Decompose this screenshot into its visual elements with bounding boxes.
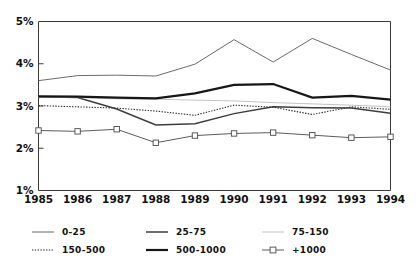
- series-line: [39, 129, 391, 143]
- y-tick-label: 4%: [16, 57, 34, 69]
- x-tick-label: 1994: [376, 193, 405, 205]
- x-tick-label: 1988: [141, 193, 170, 205]
- legend-item-25-75[interactable]: 25-75: [146, 227, 206, 237]
- series-0-25: [39, 38, 391, 80]
- x-tick-label: 1989: [180, 193, 209, 205]
- series-marker-square: [75, 129, 80, 134]
- legend-label: 25-75: [176, 227, 206, 237]
- series-marker-square: [349, 135, 354, 140]
- x-tick-label: 1991: [259, 193, 288, 205]
- legend-item-75-150[interactable]: 75-150: [262, 227, 329, 237]
- series-line: [39, 105, 391, 115]
- legend-label: 500-1000: [176, 245, 226, 255]
- series-line: [39, 84, 391, 100]
- legend-item-500-1000[interactable]: 500-1000: [146, 245, 226, 255]
- legend-marker-square: [270, 247, 276, 253]
- series-marker-square: [270, 130, 275, 135]
- y-tick-label: 5%: [16, 15, 34, 27]
- x-tick-label: 1993: [337, 193, 366, 205]
- chart-legend: 0-2525-7575-150150-500500-1000+1000: [32, 227, 329, 255]
- chart-container: 1%2%3%4%5% 19851986198719881989199019911…: [0, 0, 416, 267]
- legend-label: +1000: [292, 245, 326, 255]
- series-500-1000: [39, 84, 391, 100]
- y-tick-label: 2%: [16, 142, 34, 154]
- series-marker-square: [36, 128, 41, 133]
- y-axis-labels: 1%2%3%4%5%: [16, 15, 34, 196]
- series-layer: [36, 38, 393, 145]
- series-marker-square: [310, 132, 315, 137]
- series-150-500: [39, 105, 391, 115]
- legend-item--1000[interactable]: +1000: [262, 245, 326, 255]
- series-marker-square: [231, 131, 236, 136]
- series-marker-square: [192, 133, 197, 138]
- series-marker-square: [114, 127, 119, 132]
- series-line: [39, 38, 391, 80]
- x-tick-label: 1990: [219, 193, 248, 205]
- legend-label: 75-150: [292, 227, 329, 237]
- legend-item-150-500[interactable]: 150-500: [32, 245, 105, 255]
- y-tick-label: 3%: [16, 100, 34, 112]
- series-25-75: [39, 97, 391, 125]
- axes-rectangle: [39, 22, 391, 191]
- plot-frame: [39, 22, 391, 191]
- x-tick-label: 1992: [298, 193, 327, 205]
- series-marker-square: [388, 134, 393, 139]
- x-tick-label: 1986: [63, 193, 92, 205]
- series--1000: [36, 127, 393, 146]
- line-chart: 1%2%3%4%5% 19851986198719881989199019911…: [0, 0, 416, 267]
- series-marker-square: [153, 140, 158, 145]
- x-tick-label: 1985: [24, 193, 53, 205]
- legend-item-0-25[interactable]: 0-25: [32, 227, 86, 237]
- legend-label: 150-500: [62, 245, 105, 255]
- x-axis-labels: 1985198619871988198919901991199219931994: [24, 193, 405, 205]
- x-tick-label: 1987: [102, 193, 131, 205]
- legend-label: 0-25: [62, 227, 86, 237]
- series-line: [39, 97, 391, 125]
